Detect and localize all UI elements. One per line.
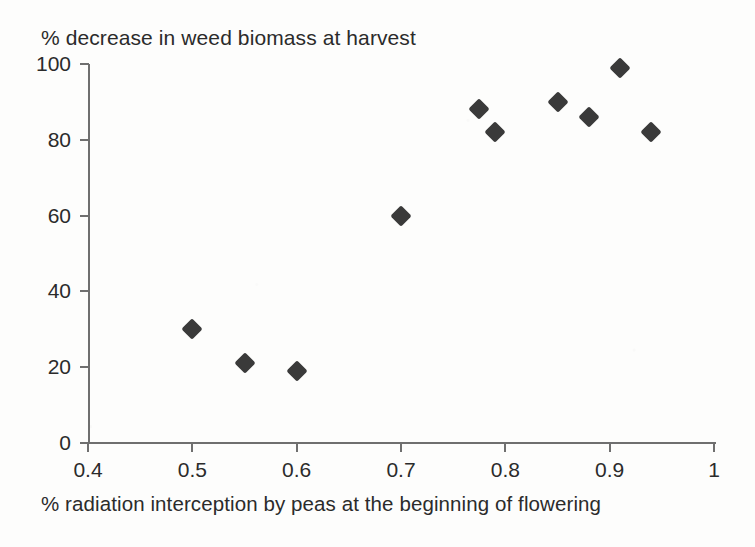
y-axis-tick: 60 — [80, 215, 89, 217]
x-axis-tick: 0.5 — [191, 443, 193, 452]
y-axis-tick-label: 40 — [48, 279, 71, 303]
x-axis-tick: 1 — [713, 443, 715, 452]
y-axis-tick-label: 0 — [59, 431, 71, 455]
y-axis-tick: 80 — [80, 139, 89, 141]
x-axis-tick: 0.8 — [504, 443, 506, 452]
x-axis-tick: 0.7 — [400, 443, 402, 452]
x-axis-title: % radiation interception by peas at the … — [41, 492, 601, 516]
y-axis-line — [88, 64, 90, 444]
x-axis-tick-label: 1 — [708, 458, 720, 482]
x-axis-line — [88, 442, 716, 444]
data-point-marker — [234, 353, 255, 374]
x-axis-tick-label: 0.8 — [491, 458, 520, 482]
y-axis-tick-label: 80 — [48, 128, 71, 152]
data-point-marker — [182, 319, 203, 340]
y-axis-tick: 20 — [80, 366, 89, 368]
x-axis-tick-label: 0.7 — [386, 458, 415, 482]
x-axis-tick-label: 0.4 — [73, 458, 102, 482]
data-point-marker — [578, 106, 599, 127]
scatter-chart-figure: % decrease in weed biomass at harvest 02… — [0, 0, 755, 547]
data-point-marker — [641, 122, 662, 143]
y-axis-tick-label: 20 — [48, 355, 71, 379]
data-point-marker — [286, 360, 307, 381]
chart-title: % decrease in weed biomass at harvest — [41, 26, 416, 50]
y-axis-tick-label: 100 — [36, 52, 71, 76]
data-point-marker — [390, 205, 411, 226]
x-axis-tick-label: 0.9 — [595, 458, 624, 482]
y-axis-tick: 40 — [80, 290, 89, 292]
data-point-marker — [609, 57, 630, 78]
data-point-marker — [484, 122, 505, 143]
data-point-marker — [469, 99, 490, 120]
x-axis-tick: 0.4 — [87, 443, 89, 452]
x-axis-tick-label: 0.6 — [282, 458, 311, 482]
x-axis-tick-label: 0.5 — [178, 458, 207, 482]
y-axis-tick: 100 — [80, 63, 89, 65]
x-axis-tick: 0.6 — [296, 443, 298, 452]
x-axis-tick: 0.9 — [609, 443, 611, 452]
data-point-marker — [547, 91, 568, 112]
y-axis-tick-label: 60 — [48, 204, 71, 228]
